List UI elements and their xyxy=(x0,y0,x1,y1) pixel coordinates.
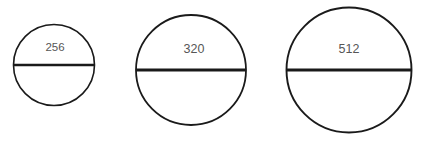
diagram-canvas: 256 320 512 xyxy=(0,0,423,141)
circle-label-256: 256 xyxy=(45,41,64,53)
circles-diagram: 256 320 512 xyxy=(0,0,423,141)
circle-label-512: 512 xyxy=(339,42,360,56)
circle-label-320: 320 xyxy=(184,42,205,56)
circle-group-256[interactable]: 256 xyxy=(14,25,95,106)
circle-group-320[interactable]: 320 xyxy=(136,15,246,125)
circle-group-512[interactable]: 512 xyxy=(287,8,412,133)
